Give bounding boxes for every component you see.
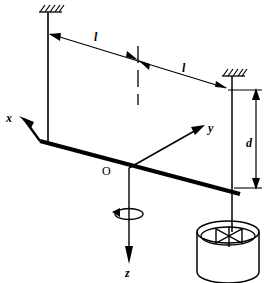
dimension-l-arrow-left [49,33,61,41]
fixed-support-right [222,69,247,76]
impeller-blade-left [216,229,229,243]
support-left-hatching [40,5,64,12]
support-right-hatching [223,69,247,76]
label-length-left: l [94,30,98,44]
schematic-svg: x y z O l l d [0,0,267,283]
rotation-arrow-about-z [112,208,143,220]
label-origin: O [102,164,111,178]
axis-y-arrowhead [191,125,205,135]
axis-x [19,116,40,141]
label-length-right: l [182,61,186,75]
vessel-rim-outer [197,221,259,243]
axis-z-arrowhead [125,246,133,264]
dimension-l-arrow-right [215,81,227,88]
axis-y-line [129,129,198,168]
fixed-support-left [39,5,64,12]
dimension-line-d [228,88,262,190]
axis-z [125,168,133,264]
label-depth: d [246,136,253,150]
vessel-bottom-arc [197,272,259,283]
label-axis-x: x [5,111,12,125]
impeller-blade-right [229,229,242,243]
axis-y [129,125,205,168]
cylindrical-vessel [197,221,259,283]
axis-x-arrowhead [19,116,34,128]
figure-canvas: x y z O l l d [0,0,267,283]
dimension-l-arrow-mid-right [138,60,150,70]
rotating-beam [40,141,240,194]
label-axis-z: z [124,266,130,280]
label-axis-y: y [206,121,214,135]
